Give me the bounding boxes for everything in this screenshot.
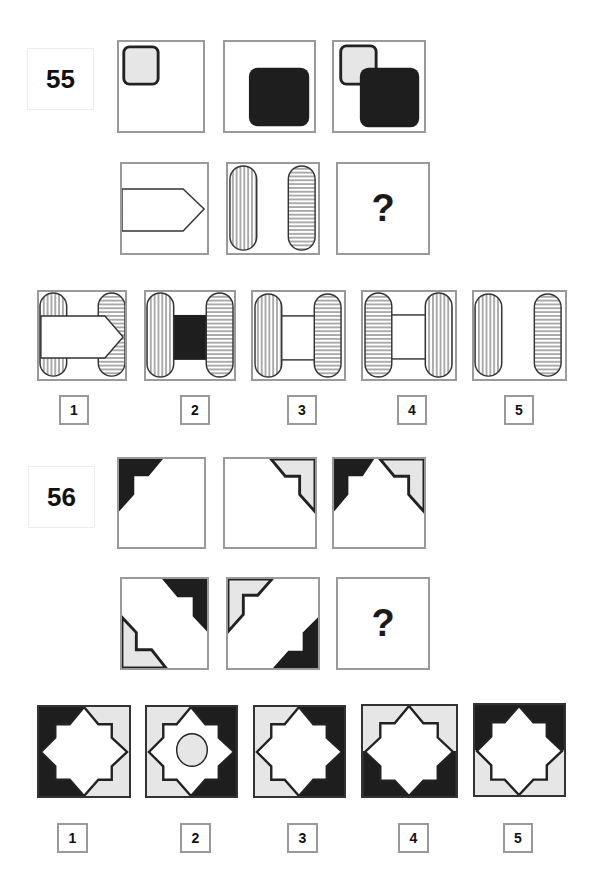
q55-figure-1-1 bbox=[117, 40, 205, 133]
q55-option-2-label[interactable]: 2 bbox=[180, 395, 210, 425]
q55-option-5-label[interactable]: 5 bbox=[504, 395, 534, 425]
q55-figure-2-3-unknown: ? bbox=[336, 162, 430, 255]
pentagon-arrow-icon bbox=[122, 164, 207, 253]
option-3-star-icon bbox=[255, 707, 344, 796]
option-4-figure-icon bbox=[363, 292, 455, 379]
q56-option-4-label[interactable]: 4 bbox=[398, 823, 429, 853]
q56-figure-2-1 bbox=[120, 577, 209, 670]
q56-option-3-label[interactable]: 3 bbox=[287, 823, 318, 853]
light-top-left-dark-bottom-right-icon bbox=[228, 579, 318, 668]
q56-option-5[interactable] bbox=[473, 703, 566, 797]
striped-capsules-icon bbox=[228, 164, 318, 253]
option-4-star-icon bbox=[363, 706, 456, 796]
q56-figure-1-1 bbox=[117, 457, 206, 549]
option-3-figure-icon bbox=[253, 292, 344, 379]
question-mark: ? bbox=[338, 164, 428, 253]
q55-figure-2-2 bbox=[226, 162, 320, 255]
q56-option-4[interactable] bbox=[361, 704, 458, 798]
option-5-figure-icon bbox=[474, 292, 565, 379]
overlapping-squares-icon bbox=[334, 42, 424, 131]
q56-figure-1-3 bbox=[332, 457, 426, 549]
q56-option-1-label[interactable]: 1 bbox=[57, 823, 88, 853]
q56-option-2[interactable] bbox=[145, 705, 238, 798]
question-number-56: 56 bbox=[28, 466, 95, 528]
option-5-star-icon bbox=[475, 705, 564, 795]
q55-option-4[interactable] bbox=[361, 290, 457, 381]
q56-option-2-label[interactable]: 2 bbox=[180, 823, 211, 853]
q56-figure-2-2 bbox=[226, 577, 320, 670]
q55-option-2[interactable] bbox=[144, 290, 236, 381]
option-2-figure-icon bbox=[146, 292, 234, 379]
q55-option-1[interactable] bbox=[37, 290, 127, 381]
dark-corner-top-left-icon bbox=[119, 459, 204, 547]
q55-option-3[interactable] bbox=[251, 290, 346, 381]
q55-figure-1-2 bbox=[223, 40, 316, 133]
small-rounded-square-icon bbox=[119, 42, 203, 131]
q56-option-5-label[interactable]: 5 bbox=[503, 823, 533, 853]
q55-option-5[interactable] bbox=[472, 290, 567, 381]
two-corners-top-icon bbox=[334, 459, 424, 547]
option-1-star-icon bbox=[39, 707, 129, 796]
q55-figure-1-3 bbox=[332, 40, 426, 133]
q55-option-4-label[interactable]: 4 bbox=[397, 395, 427, 425]
q56-option-1[interactable] bbox=[37, 705, 131, 798]
question-mark: ? bbox=[338, 579, 428, 668]
question-number-55: 55 bbox=[27, 48, 94, 110]
q55-option-1-label[interactable]: 1 bbox=[59, 395, 89, 425]
large-dark-rounded-square-icon bbox=[225, 42, 314, 131]
option-2-star-circle-icon bbox=[147, 707, 236, 796]
q56-figure-1-2 bbox=[223, 457, 317, 549]
q56-option-3[interactable] bbox=[253, 705, 346, 798]
light-corner-top-right-icon bbox=[225, 459, 315, 547]
option-1-figure-icon bbox=[39, 292, 125, 379]
q55-option-3-label[interactable]: 3 bbox=[287, 395, 317, 425]
q55-figure-2-1 bbox=[120, 162, 209, 255]
q56-figure-2-3-unknown: ? bbox=[336, 577, 430, 670]
dark-top-right-light-bottom-left-icon bbox=[122, 579, 207, 668]
